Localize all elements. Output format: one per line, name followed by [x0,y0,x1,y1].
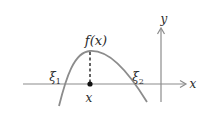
function-label: f(x) [84,33,107,48]
x-axis-label: x [190,77,197,91]
point-label: x [86,91,93,105]
root-left-label: ξ1 [49,70,61,86]
root-right-label: ξ2 [132,70,144,86]
point-x [87,81,92,86]
root-finding-diagram: f(x) ξ1 ξ2 x x y [0,0,212,113]
y-axis-label: y [160,12,168,26]
